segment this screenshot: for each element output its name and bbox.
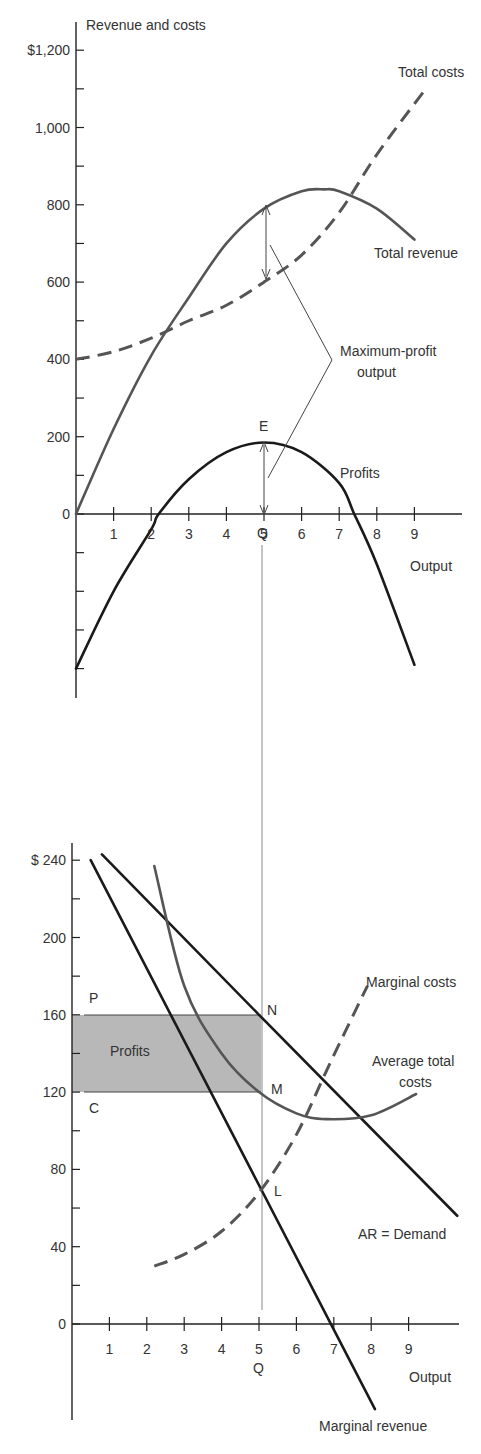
economics-figure: $1,2001,0008006004002000 123456789 Reven…	[0, 0, 481, 1454]
bottom-x-ticks: 123456789	[106, 1317, 413, 1357]
x-tick-label: 9	[405, 1341, 413, 1357]
y-tick-label: $1,200	[27, 42, 70, 58]
marginal-costs-label: Marginal costs	[366, 974, 456, 990]
point-p-label: P	[89, 990, 98, 1006]
total-costs-curve	[76, 89, 426, 360]
atc-label-line1: Average total	[372, 1053, 454, 1069]
y-tick-label: 400	[47, 351, 71, 367]
total-revenue-label: Total revenue	[374, 245, 458, 261]
max-profit-label-line2: output	[357, 364, 396, 380]
bottom-chart: $ 24020016012080400 123456789 P C N M L …	[31, 843, 459, 1434]
y-tick-label: 80	[50, 1161, 66, 1177]
point-e-label: E	[259, 418, 268, 434]
atc-label-line2: costs	[399, 1074, 432, 1090]
marginal-revenue-curve	[91, 860, 375, 1409]
marginal-revenue-label: Marginal revenue	[319, 1418, 427, 1434]
figure: $1,2001,0008006004002000 123456789 Reven…	[0, 0, 481, 1454]
x-tick-label: 7	[335, 526, 343, 542]
ar-demand-label: AR = Demand	[358, 1226, 446, 1242]
y-tick-label: 200	[47, 429, 71, 445]
point-c-label: C	[89, 1100, 99, 1116]
x-tick-label: 4	[223, 526, 231, 542]
top-chart: $1,2001,0008006004002000 123456789 Reven…	[27, 17, 464, 1310]
x-tick-label: 6	[298, 526, 306, 542]
top-q-label: Q	[257, 525, 268, 541]
point-n-label: N	[267, 1002, 277, 1018]
y-tick-label: $ 240	[31, 852, 66, 868]
x-tick-label: 7	[330, 1341, 338, 1357]
y-tick-label: 800	[47, 197, 71, 213]
x-tick-label: 2	[143, 1341, 151, 1357]
y-tick-label: 200	[43, 930, 67, 946]
x-tick-label: 6	[293, 1341, 301, 1357]
profits-shaded-area	[72, 1015, 261, 1092]
x-tick-label: 1	[106, 1341, 114, 1357]
top-x-axis-title: Output	[410, 558, 452, 574]
y-tick-label: 160	[43, 1007, 67, 1023]
y-tick-label: 0	[58, 1316, 66, 1332]
total-costs-label: Total costs	[398, 64, 464, 80]
top-y-axis-title: Revenue and costs	[86, 17, 206, 33]
y-tick-label: 600	[47, 274, 71, 290]
x-tick-label: 3	[180, 1341, 188, 1357]
profits-label: Profits	[340, 465, 380, 481]
max-profit-label-line1: Maximum-profit	[340, 343, 437, 359]
y-tick-label: 120	[43, 1084, 67, 1100]
bottom-q-label: Q	[253, 1360, 264, 1376]
x-tick-label: 5	[255, 1341, 263, 1357]
point-m-label: M	[271, 1081, 283, 1097]
y-tick-label: 40	[50, 1239, 66, 1255]
x-tick-label: 8	[373, 526, 381, 542]
point-l-label: L	[274, 1183, 282, 1199]
bottom-x-axis-title: Output	[409, 1369, 451, 1385]
y-tick-label: 1,000	[35, 120, 70, 136]
x-tick-label: 9	[411, 526, 419, 542]
x-tick-label: 4	[218, 1341, 226, 1357]
x-tick-label: 8	[367, 1341, 375, 1357]
x-tick-label: 1	[110, 526, 118, 542]
x-tick-label: 3	[185, 526, 193, 542]
profits-box-label: Profits	[110, 1043, 150, 1059]
y-tick-label: 0	[62, 506, 70, 522]
